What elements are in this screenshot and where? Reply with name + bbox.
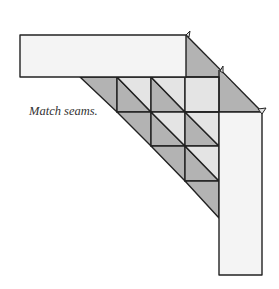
match-seams-caption: Match seams. [29, 104, 98, 119]
edge-triangle-r3 [151, 146, 185, 181]
square-r1c3 [185, 77, 219, 112]
edge-triangle-r2 [117, 112, 151, 146]
horizontal-border-strip [20, 35, 186, 77]
vertical-border-strip [219, 112, 262, 275]
quilt-assembly-diagram [0, 0, 279, 289]
edge-triangle-r4 [185, 181, 219, 218]
